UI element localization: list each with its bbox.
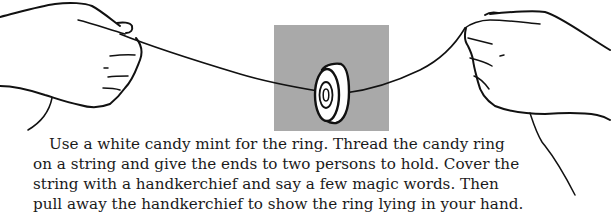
string [120, 28, 465, 93]
caption-line: string with a handkerchief and say a few… [33, 174, 466, 194]
caption-line: on a string and give the ends to two per… [33, 154, 466, 174]
candy-mint-ring-icon [315, 64, 349, 123]
caption-line: pull away the handkerchief to show the r… [33, 194, 466, 213]
caption-line: Use a white candy mint for the ring. Thr… [33, 134, 466, 154]
instructions-paragraph: Use a white candy mint for the ring. Thr… [33, 134, 466, 213]
left-hand-icon [0, 3, 141, 130]
